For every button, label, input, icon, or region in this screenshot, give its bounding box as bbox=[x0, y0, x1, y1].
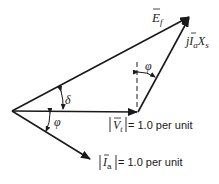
ia-phasor-arrow bbox=[12, 111, 90, 159]
phi-label-origin: φ bbox=[54, 115, 61, 129]
ia-label: Ia = 1.0 per unit bbox=[100, 155, 183, 171]
ef-label: Ef bbox=[151, 10, 164, 27]
jiaxs-label: jIaXs bbox=[184, 34, 209, 50]
ia-magnitude: = 1.0 per unit bbox=[118, 156, 183, 168]
vt-magnitude: = 1.0 per unit bbox=[128, 119, 193, 131]
vt-label: Vt = 1.0 per unit bbox=[110, 117, 193, 134]
delta-angle-arc bbox=[61, 91, 63, 109]
vt-phasor-arrow bbox=[12, 111, 137, 112]
phi-angle-arc-origin bbox=[46, 113, 50, 131]
delta-label: δ bbox=[65, 93, 71, 107]
svg-text:Ia: Ia bbox=[102, 155, 112, 171]
ef-phasor-arrow bbox=[12, 17, 189, 111]
phasor-diagram: Ef jIaXs δ φ φ Vt = 1.0 per unit Ia = 1.… bbox=[0, 0, 219, 184]
svg-text:Vt: Vt bbox=[113, 118, 123, 134]
phi-label-top: φ bbox=[145, 59, 152, 73]
